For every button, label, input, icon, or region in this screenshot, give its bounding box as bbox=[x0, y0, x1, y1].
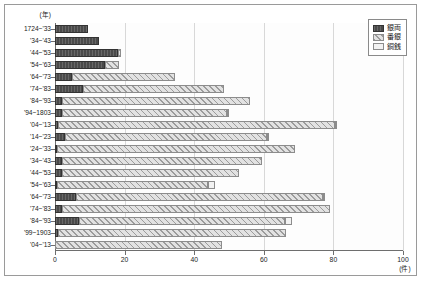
bar-row bbox=[55, 133, 269, 140]
y-axis-label: '64~'73 bbox=[30, 193, 51, 201]
bar-segment-番銀 bbox=[118, 49, 121, 56]
y-axis-tick bbox=[51, 137, 55, 138]
bar-segment-銀両 bbox=[55, 25, 88, 32]
y-axis-label: '04~'13 bbox=[30, 241, 51, 249]
y-axis-label: '64~'73 bbox=[30, 73, 51, 81]
bar-row bbox=[55, 121, 337, 128]
y-axis-label: '14~'23 bbox=[30, 133, 51, 141]
chart-container: (年) 1724~'33'34~'43'44~'53'54~'63'64~'73… bbox=[4, 4, 417, 276]
bar-segment-銅銭 bbox=[208, 181, 215, 188]
bar-row bbox=[55, 157, 262, 164]
bar-segment-銀両 bbox=[55, 169, 62, 176]
bar-segment-銀両 bbox=[55, 85, 83, 92]
y-axis-label: '99~1903 bbox=[24, 229, 51, 237]
bar-row bbox=[55, 73, 175, 80]
bar-segment-番銀 bbox=[72, 73, 175, 80]
y-axis-label: '04~'13 bbox=[30, 121, 51, 129]
bar-segment-銀両 bbox=[55, 37, 99, 44]
legend-item: 銅銭 bbox=[373, 43, 401, 51]
bar-segment-銀両 bbox=[55, 217, 79, 224]
bar-segment-銀両 bbox=[55, 133, 65, 140]
bar-row bbox=[55, 193, 325, 200]
bar-segment-番銀 bbox=[62, 109, 227, 116]
y-axis-label: '54~'63 bbox=[30, 61, 51, 69]
bar-row bbox=[55, 49, 121, 56]
y-axis-tick bbox=[51, 197, 55, 198]
x-axis-label-100: 100 bbox=[397, 255, 408, 264]
legend-swatch-icon bbox=[373, 43, 384, 50]
y-axis-tick bbox=[51, 29, 55, 30]
y-axis-label: '74~'83 bbox=[30, 85, 51, 93]
y-axis-label: '34~'43 bbox=[30, 157, 51, 165]
bar-row bbox=[55, 37, 99, 44]
bar-segment-銀両 bbox=[55, 193, 76, 200]
bar-row bbox=[55, 229, 286, 236]
y-axis-label: '74~'83 bbox=[30, 205, 51, 213]
y-axis-label: '44~'53 bbox=[30, 169, 51, 177]
bar-row bbox=[55, 169, 239, 176]
bar-segment-番銀 bbox=[105, 61, 119, 68]
bar-segment-銀両 bbox=[55, 205, 62, 212]
bar-row bbox=[55, 109, 229, 116]
bar-segment-銀両 bbox=[55, 49, 118, 56]
bar-segment-銅銭 bbox=[285, 217, 292, 224]
y-axis-label: '44~'53 bbox=[30, 49, 51, 57]
bar-segment-銅銭 bbox=[335, 121, 337, 128]
chart-legend: 銀両番銀銅銭 bbox=[368, 19, 407, 56]
x-axis-label-20: 20 bbox=[121, 255, 129, 264]
bar-segment-銀両 bbox=[55, 61, 105, 68]
bar-segment-番銀 bbox=[58, 121, 335, 128]
bar-segment-銀両 bbox=[55, 157, 62, 164]
y-axis-tick bbox=[51, 65, 55, 66]
bar-segment-番銀 bbox=[58, 229, 286, 236]
plot-area bbox=[55, 23, 403, 251]
gridline-100 bbox=[403, 23, 404, 251]
bar-segment-銅銭 bbox=[323, 193, 325, 200]
bar-segment-銀両 bbox=[55, 73, 72, 80]
bar-segment-番銀 bbox=[55, 241, 222, 248]
bar-segment-番銀 bbox=[62, 157, 262, 164]
x-axis-label-80: 80 bbox=[330, 255, 338, 264]
y-axis-label: '84~'93 bbox=[30, 217, 51, 225]
y-axis-tick bbox=[51, 245, 55, 246]
bar-segment-番銀 bbox=[57, 145, 295, 152]
y-axis-label: 1724~'33 bbox=[24, 25, 51, 33]
bar-row bbox=[55, 181, 215, 188]
y-axis-tick bbox=[51, 209, 55, 210]
y-axis-label: '94~1803 bbox=[24, 109, 51, 117]
bar-segment-番銀 bbox=[57, 181, 208, 188]
y-axis-label: '34~'43 bbox=[30, 37, 51, 45]
bar-row bbox=[55, 85, 224, 92]
bar-row bbox=[55, 145, 295, 152]
y-axis-tick bbox=[51, 173, 55, 174]
y-axis-tick bbox=[51, 77, 55, 78]
bar-row bbox=[55, 61, 119, 68]
bar-row bbox=[55, 241, 222, 248]
bar-row bbox=[55, 25, 88, 32]
legend-label: 銅銭 bbox=[387, 43, 401, 51]
y-axis-tick bbox=[51, 101, 55, 102]
y-axis-tick bbox=[51, 161, 55, 162]
x-axis-unit-label: (件) bbox=[399, 264, 410, 273]
legend-swatch-icon bbox=[373, 34, 384, 41]
legend-swatch-icon bbox=[373, 25, 384, 32]
bar-segment-番銀 bbox=[62, 205, 330, 212]
y-axis-tick bbox=[51, 41, 55, 42]
bar-segment-銅銭 bbox=[267, 133, 269, 140]
bar-segment-番銀 bbox=[83, 85, 224, 92]
bar-segment-番銀 bbox=[62, 97, 250, 104]
x-axis-labels: 020406080100 bbox=[5, 255, 418, 267]
bar-segment-銀両 bbox=[55, 109, 62, 116]
bar-segment-番銀 bbox=[76, 193, 323, 200]
legend-label: 銀両 bbox=[387, 24, 401, 32]
x-axis-label-0: 0 bbox=[53, 255, 57, 264]
bar-segment-銀両 bbox=[55, 97, 62, 104]
y-axis-tick bbox=[51, 221, 55, 222]
bar-row bbox=[55, 217, 292, 224]
x-axis-label-60: 60 bbox=[260, 255, 268, 264]
bar-segment-番銀 bbox=[65, 133, 267, 140]
bar-rows bbox=[55, 23, 403, 251]
bar-segment-番銀 bbox=[79, 217, 284, 224]
y-axis-tick bbox=[51, 89, 55, 90]
y-axis-tick bbox=[51, 125, 55, 126]
